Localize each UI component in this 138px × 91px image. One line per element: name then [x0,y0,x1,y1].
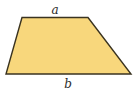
top-base-label: a [51,3,58,17]
trapezoid-shape [6,18,131,75]
trapezoid-diagram: a b [0,0,138,91]
bottom-base-label: b [64,77,72,91]
